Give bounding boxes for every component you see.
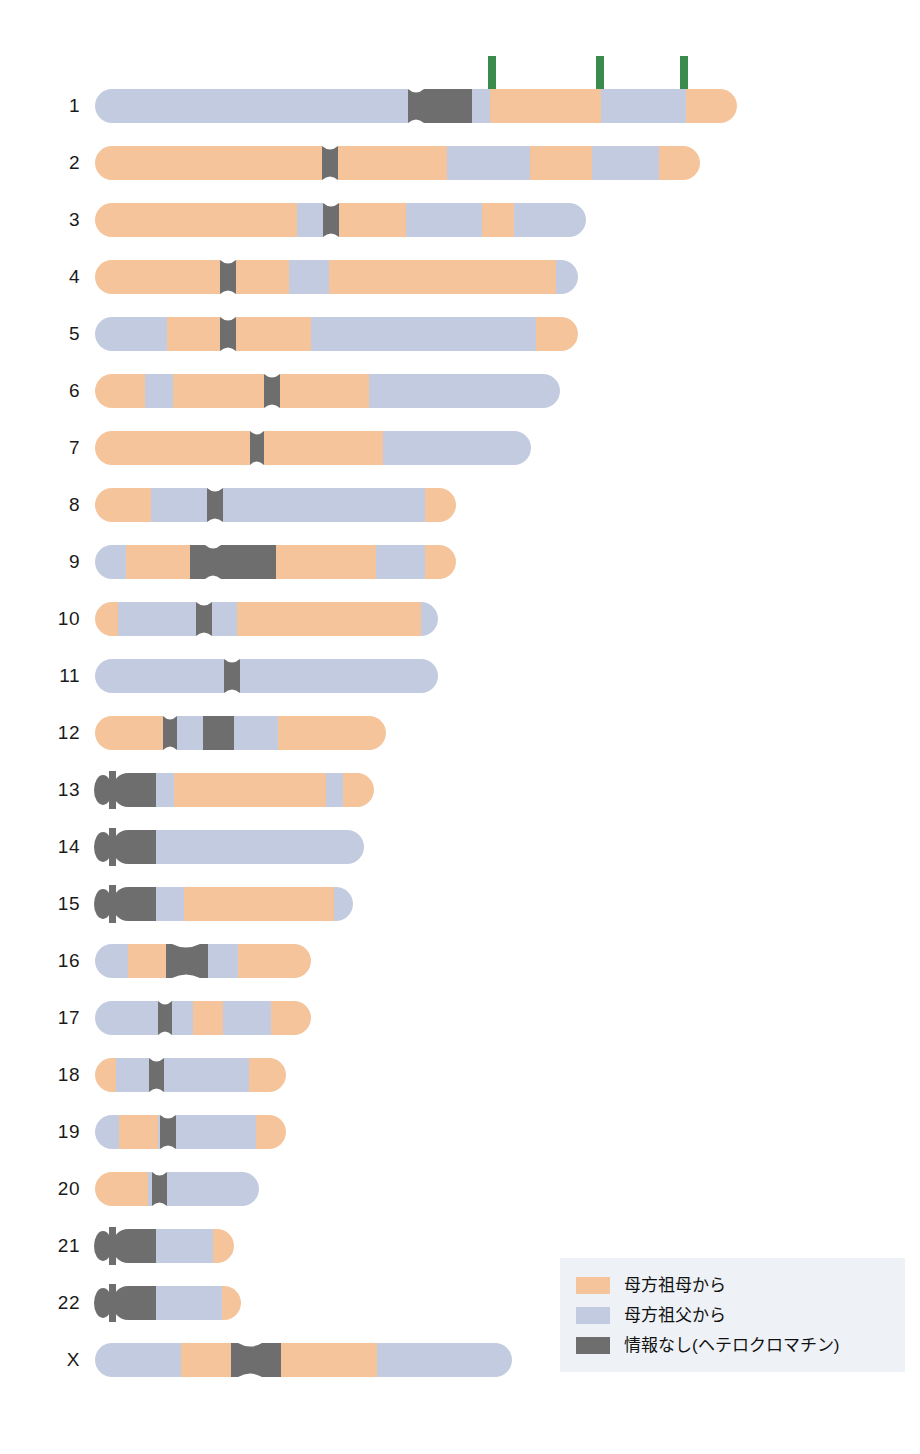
band-maternal_grandmother (343, 771, 374, 809)
band-maternal_grandfather (176, 1113, 256, 1151)
band-maternal_grandmother (490, 87, 601, 125)
band-maternal_grandmother (167, 315, 220, 353)
band-maternal_grandmother (193, 999, 223, 1037)
band-maternal_grandmother (95, 201, 297, 239)
chromosome-bar-3[interactable] (0, 200, 920, 240)
band-maternal_grandmother (181, 1341, 231, 1379)
legend-swatch-no_information (576, 1337, 610, 1354)
chromosome-bar-11[interactable] (0, 656, 920, 696)
band-maternal_grandfather (212, 600, 237, 638)
band-maternal_grandfather (369, 372, 560, 410)
band-maternal_grandmother (95, 1170, 148, 1208)
chromosome-bar-12[interactable] (0, 713, 920, 753)
band-maternal_grandmother (276, 543, 376, 581)
band-maternal_grandmother (236, 315, 311, 353)
chromosome-bar-4[interactable] (0, 257, 920, 297)
band-maternal_grandmother (128, 942, 166, 980)
chromosome-bar-15[interactable] (0, 884, 920, 924)
legend-label: 母方祖父から (624, 1307, 726, 1324)
chromosome-bar-13[interactable] (0, 770, 920, 810)
band-maternal_grandmother (95, 714, 163, 752)
legend-swatch-maternal_grandfather (576, 1307, 610, 1324)
band-no_information (408, 87, 472, 125)
band-maternal_grandfather (334, 885, 353, 923)
band-no_information (264, 372, 280, 410)
band-maternal_grandfather (297, 201, 323, 239)
band-maternal_grandfather (95, 999, 158, 1037)
band-no_information (207, 486, 223, 524)
chromosome-bar-6[interactable] (0, 371, 920, 411)
band-no_information (220, 315, 236, 353)
band-maternal_grandfather (556, 258, 578, 296)
band-no_information (152, 1170, 167, 1208)
chromosome-bar-8[interactable] (0, 485, 920, 525)
band-maternal_grandfather (601, 87, 686, 125)
band-maternal_grandmother (184, 885, 334, 923)
band-maternal_grandmother (425, 543, 456, 581)
chromosome-bar-14[interactable] (0, 827, 920, 867)
band-maternal_grandmother (95, 144, 322, 182)
band-maternal_grandfather (95, 315, 167, 353)
band-maternal_grandmother (174, 771, 326, 809)
band-maternal_grandfather (95, 543, 126, 581)
band-maternal_grandmother (249, 1056, 286, 1094)
band-maternal_grandfather (95, 87, 408, 125)
band-no_information (323, 201, 339, 239)
band-maternal_grandmother (238, 942, 311, 980)
chromosome-bar-5[interactable] (0, 314, 920, 354)
band-maternal_grandfather (172, 999, 193, 1037)
chromosome-bar-9[interactable] (0, 542, 920, 582)
chromosome-bar-1[interactable] (0, 86, 920, 126)
band-maternal_grandfather (95, 657, 224, 695)
chromosome-bar-16[interactable] (0, 941, 920, 981)
band-maternal_grandmother (95, 1056, 116, 1094)
band-maternal_grandfather (592, 144, 659, 182)
band-maternal_grandmother (338, 144, 447, 182)
band-maternal_grandfather (383, 429, 531, 467)
legend-label: 母方祖母から (624, 1277, 726, 1294)
chromosome-bar-7[interactable] (0, 428, 920, 468)
band-maternal_grandmother (281, 1341, 377, 1379)
acrocentric-short-arm (94, 771, 156, 809)
band-no_information (166, 942, 208, 980)
band-no_information (190, 543, 276, 581)
band-maternal_grandfather (240, 657, 438, 695)
chromosome-bar-17[interactable] (0, 998, 920, 1038)
acrocentric-short-arm (94, 1284, 156, 1322)
band-maternal_grandfather (116, 1056, 149, 1094)
band-maternal_grandfather (164, 1056, 249, 1094)
band-maternal_grandfather (95, 1113, 119, 1151)
acrocentric-short-arm (94, 828, 156, 866)
chromosome-bar-2[interactable] (0, 143, 920, 183)
legend-label: 情報なし(ヘテロクロマチン) (624, 1337, 839, 1354)
band-maternal_grandmother (222, 1284, 241, 1322)
band-no_information (224, 657, 240, 695)
band-maternal_grandfather (145, 372, 173, 410)
band-maternal_grandmother (236, 258, 289, 296)
band-maternal_grandmother (95, 429, 250, 467)
chromosome-bar-19[interactable] (0, 1112, 920, 1152)
band-maternal_grandmother (425, 486, 456, 524)
band-no_information (322, 144, 338, 182)
acrocentric-short-arm (94, 885, 156, 923)
band-maternal_grandfather (156, 828, 364, 866)
chromosome-bar-10[interactable] (0, 599, 920, 639)
band-maternal_grandmother (237, 600, 421, 638)
band-no_information (220, 258, 236, 296)
band-maternal_grandfather (311, 315, 536, 353)
legend-panel: 母方祖母から母方祖父から情報なし(ヘテロクロマチン) (560, 1258, 905, 1372)
band-maternal_grandfather (376, 543, 425, 581)
band-maternal_grandfather (95, 942, 128, 980)
band-maternal_grandmother (95, 372, 145, 410)
band-maternal_grandfather (156, 885, 184, 923)
band-maternal_grandfather (406, 201, 482, 239)
band-maternal_grandfather (289, 258, 329, 296)
chromosome-bar-20[interactable] (0, 1169, 920, 1209)
band-maternal_grandfather (234, 714, 278, 752)
chromosome-bar-18[interactable] (0, 1055, 920, 1095)
legend-item: 母方祖父から (576, 1302, 887, 1328)
band-maternal_grandmother (536, 315, 578, 353)
band-maternal_grandmother (95, 486, 151, 524)
band-no_information (163, 714, 177, 752)
band-maternal_grandfather (177, 714, 203, 752)
